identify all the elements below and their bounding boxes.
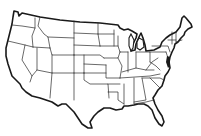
lake-huron-michigan-thumb bbox=[137, 38, 144, 50]
country-outline bbox=[6, 11, 192, 128]
us-states-outline-map bbox=[0, 0, 201, 136]
